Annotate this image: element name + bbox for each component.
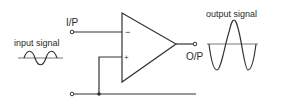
inverting-pin-label: − [125,27,130,37]
output-sine-wave-icon [209,20,256,70]
input-terminal-label: I/P [66,17,79,28]
output-terminal-label: O/P [186,51,204,62]
input-signal-label: input signal [14,38,60,48]
output-signal-label: output signal [206,9,257,19]
non-inverting-pin-label: + [124,53,129,62]
ground-terminal [70,92,74,96]
op-amp-diagram: − + I/P O/P input signal output signal [0,0,281,99]
output-terminal [193,42,197,46]
op-amp-triangle [122,13,176,82]
non-inverting-input-wire [99,57,122,94]
input-terminal [70,30,74,34]
junction-dot [97,92,101,96]
